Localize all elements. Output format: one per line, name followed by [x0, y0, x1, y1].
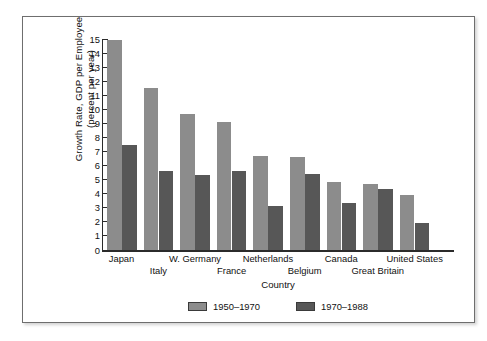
bar-belgium-1970-1988 — [305, 174, 320, 250]
y-axis-tick-label: 15 — [90, 34, 100, 45]
bar-netherlands-1970-1988 — [268, 206, 283, 250]
bar-belgium-1950-1970 — [290, 157, 305, 250]
bar-canada-1970-1988 — [342, 203, 357, 250]
bar-w-germany-1970-1988 — [195, 175, 210, 250]
figure-frame: Growth Rate, GDP per Employee (percent p… — [22, 16, 475, 323]
y-axis-tick-label: 3 — [95, 202, 100, 213]
legend-item-1970-1988: 1970–1988 — [296, 301, 368, 312]
y-axis-tick-label: 12 — [90, 76, 100, 87]
y-axis-tick-label: 11 — [90, 90, 100, 101]
y-axis-tick-label: 8 — [95, 132, 100, 143]
bar-united-states-1970-1988 — [415, 223, 430, 250]
bar-w-germany-1950-1970 — [180, 114, 195, 250]
bar-japan-1950-1970 — [107, 40, 122, 250]
y-axis-tick-label: 0 — [95, 245, 100, 256]
y-axis-tick-label: 5 — [95, 174, 100, 185]
legend-label: 1970–1988 — [321, 301, 368, 312]
y-axis-tick-label: 6 — [95, 160, 100, 171]
x-axis-label-japan: Japan — [109, 253, 135, 264]
y-axis-tick-label: 10 — [90, 104, 100, 115]
x-axis-category-labels: JapanItalyW. GermanyFranceNetherlandsBel… — [102, 253, 454, 279]
bar-france-1950-1970 — [217, 122, 232, 250]
y-axis-tick-label: 9 — [95, 118, 100, 129]
x-axis-label-great-britain: Great Britain — [351, 265, 404, 276]
bar-italy-1970-1988 — [159, 171, 174, 250]
y-axis-tick-label: 4 — [95, 188, 100, 199]
bar-japan-1970-1988 — [122, 145, 137, 251]
x-axis-title: Country — [102, 279, 454, 290]
x-axis-label-france: France — [217, 265, 246, 276]
bar-france-1970-1988 — [232, 171, 247, 250]
x-axis-label-italy: Italy — [150, 265, 167, 276]
x-axis-label-belgium: Belgium — [288, 265, 322, 276]
bar-canada-1950-1970 — [327, 182, 342, 250]
x-axis-label-canada: Canada — [325, 253, 358, 264]
x-axis-line — [102, 250, 454, 252]
bar-italy-1950-1970 — [144, 88, 159, 250]
bars-layer — [103, 39, 454, 250]
x-axis-label-united-states: United States — [387, 253, 443, 264]
legend-swatch — [296, 302, 315, 311]
bar-great-britain-1950-1970 — [363, 184, 378, 250]
bar-great-britain-1970-1988 — [378, 189, 393, 250]
x-axis-label-w-germany: W. Germany — [169, 253, 221, 264]
bar-netherlands-1950-1970 — [253, 156, 268, 250]
y-axis-tick-label: 1 — [95, 230, 100, 241]
legend-swatch — [188, 302, 207, 311]
plot-area: 1514131211109876543210 — [102, 39, 454, 251]
legend-label: 1950–1970 — [213, 301, 260, 312]
y-axis-tick-label: 7 — [95, 146, 100, 157]
chart-legend: 1950–19701970–1988 — [102, 298, 454, 314]
y-axis-tick-label: 13 — [90, 62, 100, 73]
legend-item-1950-1970: 1950–1970 — [188, 301, 260, 312]
y-axis-tick-label: 14 — [90, 48, 100, 59]
bar-united-states-1950-1970 — [400, 195, 415, 250]
x-axis-label-netherlands: Netherlands — [243, 253, 294, 264]
chart-screenshot: Growth Rate, GDP per Employee (percent p… — [0, 0, 487, 341]
y-axis-tick-label: 2 — [95, 216, 100, 227]
